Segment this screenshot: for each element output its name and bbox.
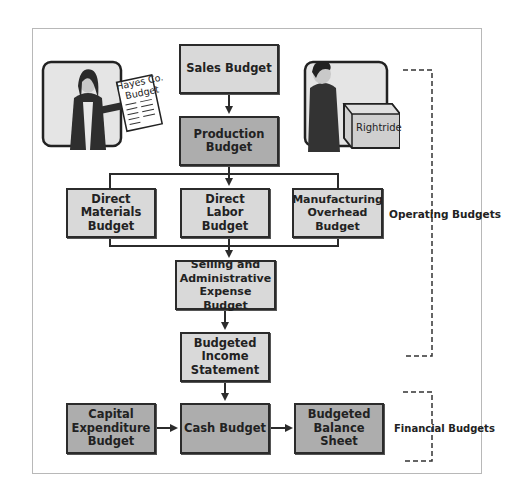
node-text: Budgeted	[308, 408, 371, 422]
box-label: Rightride	[356, 122, 402, 133]
node-text: Direct	[81, 193, 142, 207]
node-text: Production	[194, 128, 265, 142]
node-manufacturing-overhead-budget: ManufacturingOverheadBudget	[292, 188, 383, 238]
node-direct-labor-budget: DirectLaborBudget	[180, 188, 270, 238]
node-direct-materials-budget: DirectMaterialsBudget	[66, 188, 156, 238]
node-text: Cash Budget	[184, 422, 266, 436]
node-text: Budget	[72, 435, 151, 449]
node-cash-budget: Cash Budget	[180, 403, 270, 454]
node-text: Sheet	[308, 435, 371, 449]
node-text: Statement	[191, 364, 259, 378]
node-text: Direct	[202, 193, 249, 207]
node-text: Overhead	[292, 206, 383, 220]
node-text: Manufacturing	[292, 193, 383, 207]
node-text: Selling and	[179, 258, 272, 272]
node-text: Budget	[202, 220, 249, 234]
node-text: Materials	[81, 206, 142, 220]
node-budgeted-income-statement: BudgetedIncomeStatement	[180, 332, 270, 382]
node-text: Budgeted	[191, 337, 259, 351]
node-text: Expenditure	[72, 422, 151, 436]
node-capital-expenditure-budget: CapitalExpenditureBudget	[66, 403, 156, 454]
node-text: Capital	[72, 408, 151, 422]
node-sales-budget: Sales Budget	[179, 44, 279, 94]
node-budgeted-balance-sheet: BudgetedBalanceSheet	[294, 403, 384, 454]
node-selling-admin-expense-budget: Selling andAdministrativeExpense Budget	[175, 260, 276, 310]
node-text: Expense Budget	[179, 285, 272, 312]
node-text: Budget	[81, 220, 142, 234]
node-production-budget: ProductionBudget	[179, 116, 279, 166]
node-text: Administrative	[179, 272, 272, 286]
financial-budgets-label: Financial Budgets	[394, 423, 495, 434]
node-text: Sales Budget	[186, 62, 271, 76]
node-text: Income	[191, 350, 259, 364]
businessman-illustration	[300, 58, 400, 154]
node-text: Budget	[194, 141, 265, 155]
node-text: Labor	[202, 206, 249, 220]
operating-budgets-label: Operating Budgets	[389, 208, 501, 220]
node-text: Budget	[292, 220, 383, 234]
node-text: Balance	[308, 422, 371, 436]
